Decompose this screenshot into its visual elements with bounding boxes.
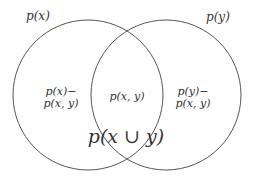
right-only-line2: p(x, y)	[175, 98, 210, 110]
right-only-region-label: p(y)− p(x, y)	[175, 86, 210, 110]
set-y-label: p(y)	[206, 11, 230, 23]
set-x-label: p(x)	[26, 10, 50, 22]
venn-diagram: p(x) p(y) p(x)− p(x, y) p(x, y) p(y)− p(…	[0, 0, 253, 178]
left-only-region-label: p(x)− p(x, y)	[43, 86, 78, 110]
intersection-label: p(x, y)	[109, 91, 144, 103]
intersection-region-label: p(x, y)	[109, 91, 144, 103]
venn-circles	[0, 0, 253, 178]
union-label: p(x ∪ y)	[88, 127, 164, 146]
left-only-line2: p(x, y)	[43, 98, 78, 110]
